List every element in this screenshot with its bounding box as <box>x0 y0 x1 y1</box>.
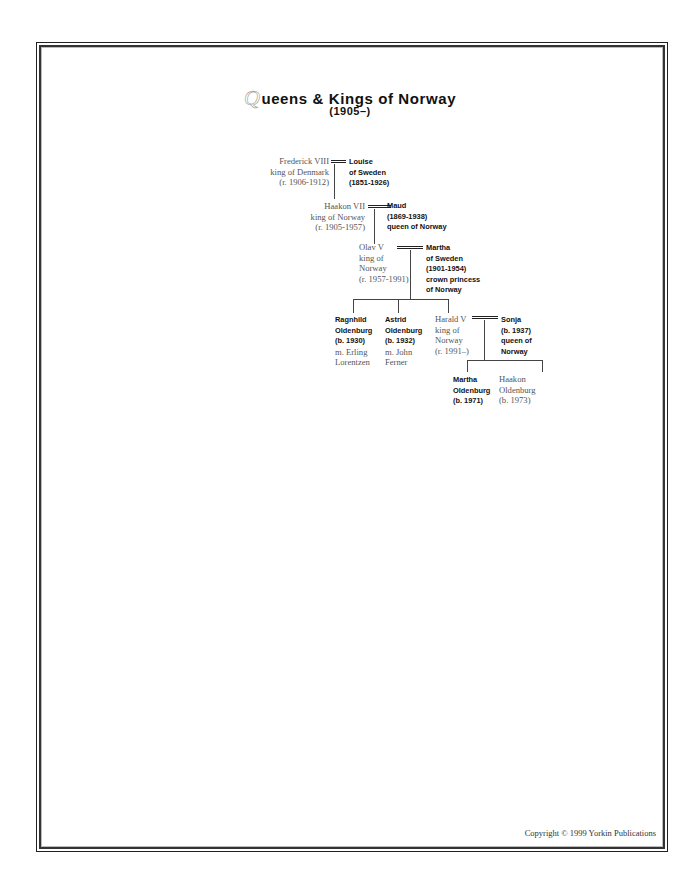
spouse-cont: Lorentzen <box>335 357 372 368</box>
person-haakon-oldenburg: Haakon Oldenburg (b. 1973) <box>499 374 536 406</box>
child-drop <box>467 360 468 372</box>
surname: Oldenburg <box>385 326 422 337</box>
spouse: m. John <box>385 347 422 358</box>
title2-cont: of Norway <box>426 285 480 296</box>
descent-line <box>410 250 411 299</box>
name: Frederick VIII <box>270 156 329 167</box>
child-drop <box>542 360 543 372</box>
descent-line <box>484 320 485 361</box>
surname: Oldenburg <box>335 326 372 337</box>
title: queen of Norway <box>387 222 447 233</box>
surname: Oldenburg <box>499 385 536 396</box>
surname: Oldenburg <box>453 386 490 397</box>
title: king of <box>359 253 409 264</box>
name: Astrid <box>385 315 422 326</box>
person-harald-v: Harald V king of Norway (r. 1991–) <box>435 314 469 356</box>
title2: crown princess <box>426 275 480 286</box>
title: queen of <box>501 336 532 347</box>
sibling-bar <box>353 299 449 300</box>
person-frederick-viii: Frederick VIII king of Denmark (r. 1906-… <box>270 156 329 188</box>
person-astrid: Astrid Oldenburg (b. 1932) m. John Ferne… <box>385 315 422 368</box>
marriage-line <box>331 160 346 163</box>
child-drop <box>398 299 399 313</box>
person-sonja: Sonja (b. 1937) queen of Norway <box>501 315 532 357</box>
person-martha: Martha of Sweden (1901-1954) crown princ… <box>426 243 480 296</box>
dates: (b. 1971) <box>453 396 490 407</box>
title: of Sweden <box>349 168 389 179</box>
spouse: m. Erling <box>335 347 372 358</box>
name: Haakon VII <box>311 201 365 212</box>
spouse-cont: Ferner <box>385 357 422 368</box>
marriage-line <box>397 246 423 249</box>
title: king of <box>435 325 469 336</box>
child-drop <box>448 299 449 313</box>
name: Sonja <box>501 315 532 326</box>
title-cont: Norway <box>359 263 409 274</box>
name: Maud <box>387 201 447 212</box>
page-subtitle: (1905–) <box>0 105 700 117</box>
name: Louise <box>349 157 389 168</box>
dates: (1851-1926) <box>349 178 389 189</box>
copyright-notice: Copyright © 1999 Yorkin Publications <box>525 828 656 838</box>
dates: (b. 1932) <box>385 336 422 347</box>
dates: (b. 1930) <box>335 336 372 347</box>
person-haakon-vii: Haakon VII king of Norway (r. 1905-1957) <box>311 201 365 233</box>
person-louise: Louise of Sweden (1851-1926) <box>349 157 389 189</box>
title: king of Denmark <box>270 167 329 178</box>
title-cont: Norway <box>501 347 532 358</box>
marriage-line <box>472 316 498 319</box>
dates: (b. 1973) <box>499 395 536 406</box>
name: Harald V <box>435 314 469 325</box>
person-ragnhild: Ragnhild Oldenburg (b. 1930) m. Erling L… <box>335 315 372 368</box>
sibling-bar <box>467 360 543 361</box>
title: of Sweden <box>426 254 480 265</box>
person-maud: Maud (1869-1938) queen of Norway <box>387 201 447 233</box>
reign: (r. 1991–) <box>435 346 469 357</box>
name: Martha <box>426 243 480 254</box>
reign: (r. 1906-1912) <box>270 177 329 188</box>
name: Martha <box>453 375 490 386</box>
person-martha-oldenburg: Martha Oldenburg (b. 1971) <box>453 375 490 407</box>
descent-line <box>334 164 335 199</box>
descent-line <box>374 209 375 244</box>
dates: (b. 1937) <box>501 326 532 337</box>
reign: (r. 1957-1991) <box>359 274 409 285</box>
dates: (1869-1938) <box>387 212 447 223</box>
dates: (1901-1954) <box>426 264 480 275</box>
title-cont: Norway <box>435 335 469 346</box>
name: Ragnhild <box>335 315 372 326</box>
title: king of Norway <box>311 212 365 223</box>
name: Haakon <box>499 374 536 385</box>
reign: (r. 1905-1957) <box>311 222 365 233</box>
child-drop <box>353 299 354 313</box>
